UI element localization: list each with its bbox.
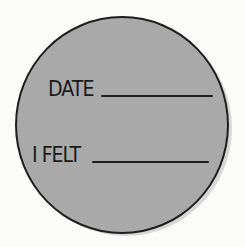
date-label: DATE — [48, 75, 93, 100]
date-blank-line — [101, 95, 213, 97]
round-label-sticker — [15, 16, 229, 234]
i-felt-blank-line — [92, 161, 209, 163]
i-felt-label: I FELT — [32, 141, 80, 166]
